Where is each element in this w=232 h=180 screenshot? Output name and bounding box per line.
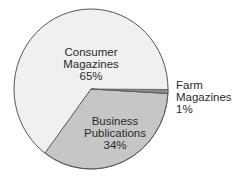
- label-farm-magazines: Farm Magazines 1%: [176, 79, 232, 115]
- label-farm-line1: Farm: [176, 79, 232, 91]
- label-business-line1: Business: [80, 115, 150, 127]
- label-consumer-line1: Consumer: [56, 46, 126, 58]
- label-business-line2: Publications: [80, 127, 150, 139]
- label-business-publications: Business Publications 34%: [80, 115, 150, 151]
- label-business-pct: 34%: [80, 139, 150, 151]
- label-farm-pct: 1%: [176, 103, 232, 115]
- label-consumer-pct: 65%: [56, 70, 126, 82]
- label-farm-line2: Magazines: [176, 91, 232, 103]
- label-consumer-magazines: Consumer Magazines 65%: [56, 46, 126, 82]
- label-consumer-line2: Magazines: [56, 58, 126, 70]
